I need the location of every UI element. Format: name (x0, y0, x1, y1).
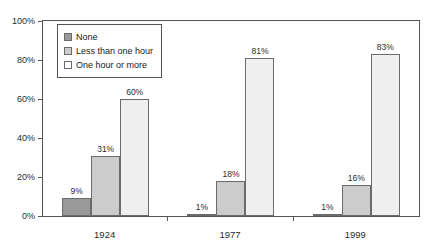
legend-item-label: None (76, 32, 98, 42)
bar[interactable] (313, 214, 342, 216)
y-tick-label: 0% (22, 211, 35, 221)
bar-value-label: 81% (251, 46, 268, 56)
y-tick-label: 20% (17, 172, 35, 182)
y-tick-label: 40% (17, 133, 35, 143)
bar-value-label: 9% (71, 186, 83, 196)
x-axis-separator-tick (293, 217, 294, 221)
legend-swatch-icon (64, 61, 72, 69)
legend-item[interactable]: None (64, 30, 153, 44)
bar[interactable] (91, 156, 120, 216)
bar-value-label: 18% (222, 169, 239, 179)
bar[interactable] (120, 99, 149, 216)
bar-value-label: 1% (321, 202, 333, 212)
legend-item-label: One hour or more (76, 60, 147, 70)
x-axis: 192419771999 (42, 217, 420, 251)
legend-swatch-icon (64, 47, 72, 55)
y-tick-label: 60% (17, 94, 35, 104)
legend-item[interactable]: Less than one hour (64, 44, 153, 58)
bar[interactable] (216, 181, 245, 216)
legend-swatch-icon (64, 33, 72, 41)
x-axis-separator-tick (167, 217, 168, 221)
bar-value-label: 60% (126, 87, 143, 97)
legend-item-label: Less than one hour (76, 46, 153, 56)
bar[interactable] (245, 58, 274, 216)
bar[interactable] (342, 185, 371, 216)
bar-value-label: 83% (377, 42, 394, 52)
bar-value-label: 31% (97, 144, 114, 154)
x-tick-label: 1977 (219, 229, 240, 240)
legend-item[interactable]: One hour or more (64, 58, 153, 72)
bar-value-label: 1% (196, 202, 208, 212)
y-tick-label: 80% (17, 55, 35, 65)
bar[interactable] (62, 198, 91, 216)
bar[interactable] (371, 54, 400, 216)
chart-legend: NoneLess than one hourOne hour or more (57, 24, 162, 78)
y-tick-label: 100% (12, 16, 35, 26)
bar-group: 1%18%81% (168, 21, 293, 216)
bar-group: 1%16%83% (294, 21, 419, 216)
bar-chart: 0%20%40%60%80%100% 9%31%60%1%18%81%1%16%… (0, 0, 437, 251)
bar-value-label: 16% (348, 173, 365, 183)
x-tick-label: 1999 (345, 229, 366, 240)
y-axis: 0%20%40%60%80%100% (0, 0, 42, 218)
bar[interactable] (187, 214, 216, 216)
x-tick-label: 1924 (94, 229, 115, 240)
